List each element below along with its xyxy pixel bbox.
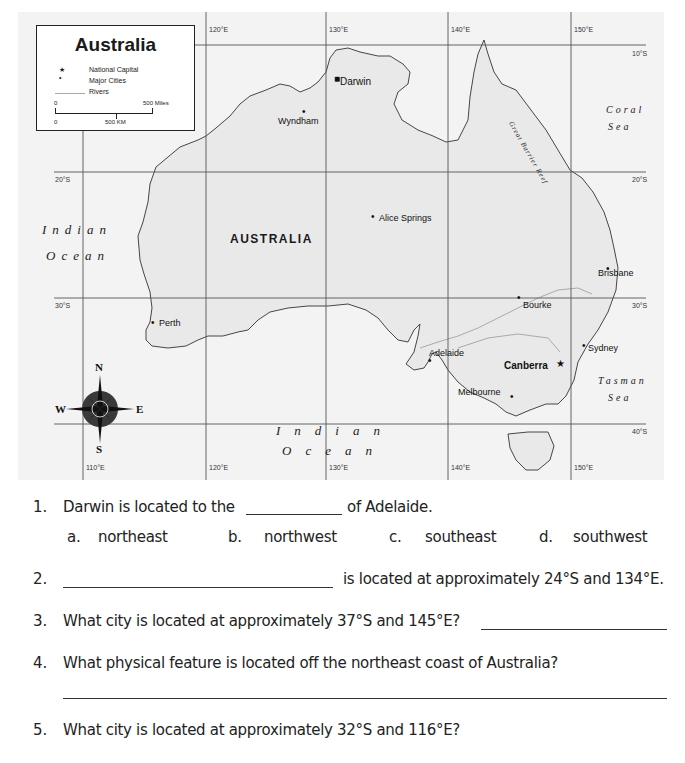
tasmania <box>508 432 554 470</box>
map-legend: Australia ★ National Capital • Major Cit… <box>36 25 195 131</box>
coral-sea-line1: Coral <box>606 104 644 115</box>
question-2-number: 2. <box>33 570 47 588</box>
city-sydney[interactable]: Sydney <box>588 343 618 353</box>
scale-km-start: 0 <box>54 119 57 125</box>
city-dot: • <box>582 340 586 351</box>
coral-sea-line2: Sea <box>608 121 631 132</box>
australia-map: Australia ★ National Capital • Major Cit… <box>18 12 664 480</box>
city-adelaide[interactable]: Adelaide <box>429 348 464 358</box>
tasman-sea-line1: Tasman <box>598 375 647 386</box>
tick-right-10s: 10°S <box>632 50 647 57</box>
compass-rose <box>66 375 134 443</box>
tasman-sea-line2: Sea <box>608 392 631 403</box>
tick-bottom-120e: 120°E <box>209 464 228 471</box>
legend-rivers: Rivers <box>89 88 109 95</box>
dot-icon: • <box>59 74 61 81</box>
indian-ocean-south-line2: Ocean <box>282 443 386 459</box>
option-a-text[interactable]: northeast <box>98 528 168 546</box>
legend-national-capital: National Capital <box>89 66 138 73</box>
scale-miles-end: 500 Miles <box>143 100 169 106</box>
option-c-text[interactable]: southeast <box>425 528 496 546</box>
tick-right-20s: 20°S <box>632 176 647 183</box>
city-canberra[interactable]: Canberra <box>504 360 548 371</box>
city-bourke[interactable]: Bourke <box>523 300 552 310</box>
question-1-text-after: of Adelaide. <box>347 498 432 516</box>
scale-miles-start: 0 <box>54 100 57 106</box>
city-dot: • <box>510 391 514 402</box>
question-3-answer-blank[interactable] <box>481 629 667 630</box>
question-5-text: What city is located at approximately 32… <box>63 721 460 739</box>
tick-bottom-150e: 150°E <box>574 464 593 471</box>
scale-km-mid: 500 KM <box>105 119 126 125</box>
city-perth[interactable]: Perth <box>159 318 181 328</box>
compass-west: W <box>55 403 66 415</box>
city-dot: • <box>517 292 521 303</box>
option-c-letter: c. <box>389 528 401 546</box>
tick-top-130e: 130°E <box>329 26 348 33</box>
question-1-text-before: Darwin is located to the <box>63 498 235 516</box>
question-1-answer-blank[interactable] <box>246 514 342 515</box>
question-4-number: 4. <box>33 654 47 672</box>
question-4-answer-blank[interactable] <box>63 698 667 699</box>
question-1-number: 1. <box>33 498 47 516</box>
option-a-letter: a. <box>67 528 80 546</box>
legend-title: Australia <box>37 34 194 56</box>
question-3-number: 3. <box>33 612 47 630</box>
question-3-text: What city is located at approximately 37… <box>63 612 460 630</box>
scale-bar <box>55 108 153 114</box>
indian-ocean-west-line2: Ocean <box>46 248 110 264</box>
tick-top-120e: 120°E <box>209 26 228 33</box>
city-wyndham[interactable]: Wyndham <box>278 116 318 126</box>
star-icon: ★ <box>59 66 65 74</box>
option-b-text[interactable]: northwest <box>264 528 337 546</box>
option-d-text[interactable]: southwest <box>573 528 647 546</box>
river-line-icon <box>55 93 85 94</box>
city-dot: • <box>371 211 375 222</box>
city-darwin[interactable]: Darwin <box>340 76 371 87</box>
question-2-answer-blank[interactable] <box>63 587 333 588</box>
star-icon: ★ <box>556 358 565 369</box>
option-d-letter: d. <box>539 528 553 546</box>
city-melbourne[interactable]: Melbourne <box>458 387 501 397</box>
tick-top-150e: 150°E <box>574 26 593 33</box>
tick-right-30s: 30°S <box>632 302 647 309</box>
compass-east: E <box>136 403 143 415</box>
tick-top-140e: 140°E <box>451 26 470 33</box>
city-brisbane[interactable]: Brisbane <box>598 268 634 278</box>
compass-south: S <box>96 443 102 455</box>
tick-left-30s: 30°S <box>55 302 70 309</box>
city-dot: • <box>151 317 155 328</box>
question-5-number: 5. <box>33 721 47 739</box>
tick-bottom-140e: 140°E <box>451 464 470 471</box>
legend-major-cities: Major Cities <box>89 77 126 84</box>
indian-ocean-south-line1: Indian <box>276 423 394 439</box>
country-label: AUSTRALIA <box>230 232 313 246</box>
tick-left-20s: 20°S <box>55 176 70 183</box>
tick-right-40s: 40°S <box>632 428 647 435</box>
option-b-letter: b. <box>228 528 242 546</box>
indian-ocean-west-line1: Indian <box>42 222 112 238</box>
question-2-text-after: is located at approximately 24°S and 134… <box>343 570 664 588</box>
question-4-text: What physical feature is located off the… <box>63 654 558 672</box>
tick-bottom-110e: 110°E <box>86 464 105 471</box>
tick-bottom-130e: 130°E <box>329 464 348 471</box>
compass-north: N <box>95 361 103 373</box>
city-alice-springs[interactable]: Alice Springs <box>379 213 432 223</box>
